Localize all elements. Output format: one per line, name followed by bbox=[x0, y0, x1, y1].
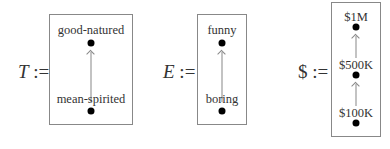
order-t-definition: T := bbox=[18, 61, 49, 83]
order-t-bottom-node bbox=[88, 108, 95, 115]
order-dollar-bottom-node bbox=[353, 120, 360, 127]
order-dollar-box: $1M $500K $100K bbox=[331, 2, 381, 137]
order-arrow-icon bbox=[356, 84, 357, 106]
order-e-symbol: E bbox=[163, 61, 175, 82]
order-e-box: funny boring bbox=[197, 14, 247, 125]
order-t-top-node bbox=[88, 40, 95, 47]
assign-operator: := bbox=[33, 61, 49, 82]
order-arrow-icon bbox=[356, 36, 357, 58]
order-t-top-label: good-natured bbox=[58, 23, 125, 38]
order-t-symbol: T bbox=[18, 61, 29, 82]
order-t-bottom-label: mean-spirited bbox=[57, 92, 126, 107]
assign-operator: := bbox=[312, 61, 328, 82]
order-dollar-middle-node bbox=[353, 72, 360, 79]
order-e-bottom-node bbox=[219, 108, 226, 115]
order-e-top-node bbox=[219, 40, 226, 47]
order-dollar-definition: $ := bbox=[298, 61, 328, 83]
order-t-box: good-natured mean-spirited bbox=[49, 14, 133, 125]
order-dollar-symbol: $ bbox=[298, 61, 308, 82]
order-e-bottom-label: boring bbox=[206, 92, 239, 107]
order-dollar-top-node bbox=[353, 24, 360, 31]
order-e-definition: E := bbox=[163, 61, 195, 83]
order-e-top-label: funny bbox=[207, 23, 236, 38]
assign-operator: := bbox=[179, 61, 195, 82]
